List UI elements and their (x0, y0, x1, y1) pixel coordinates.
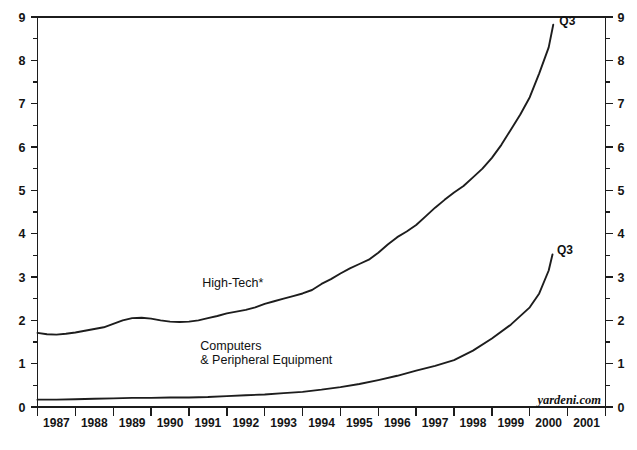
x-tick-label: 1990 (157, 416, 184, 430)
x-tick-label: 1988 (81, 416, 108, 430)
y-axis-labels-left: 0123456789 (19, 11, 26, 415)
x-tick-label: 1996 (384, 416, 411, 430)
series-label-high-tech: High-Tech* (202, 276, 263, 290)
chart-axes (38, 17, 606, 407)
x-tick-label: 1993 (270, 416, 297, 430)
y-tick-label-right: 0 (618, 401, 625, 415)
y-axis-ticks-right (606, 17, 613, 407)
x-tick-label: 2000 (535, 416, 562, 430)
footer-strip (0, 439, 637, 450)
x-tick-label: 1991 (195, 416, 222, 430)
y-tick-label-right: 3 (618, 271, 625, 285)
series-line-high-tech (38, 25, 554, 335)
x-tick-label: 1995 (346, 416, 373, 430)
y-tick-label-right: 4 (618, 227, 625, 241)
y-tick-label-right: 2 (618, 314, 625, 328)
y-tick-label-left: 8 (19, 54, 26, 68)
y-tick-label-right: 1 (618, 357, 625, 371)
x-tick-label: 1998 (460, 416, 487, 430)
annotation-q3-computers: Q3 (557, 243, 573, 257)
y-axis-labels-right: 0123456789 (618, 11, 625, 415)
y-tick-label-left: 7 (19, 97, 26, 111)
y-tick-label-left: 5 (19, 184, 26, 198)
y-tick-label-left: 0 (19, 401, 26, 415)
x-tick-label: 1997 (422, 416, 449, 430)
series-line-computers (38, 254, 553, 399)
x-axis-ticks (38, 407, 606, 416)
y-tick-label-right: 6 (618, 141, 625, 155)
y-tick-label-right: 7 (618, 97, 625, 111)
chart-container: 0123456789 0123456789 198719881989199019… (0, 0, 637, 450)
y-tick-label-left: 1 (19, 357, 26, 371)
watermark-yardeni: yardeni.com (535, 393, 601, 407)
x-tick-label: 1989 (119, 416, 146, 430)
y-axis-ticks-left (31, 17, 38, 407)
line-chart: 0123456789 0123456789 198719881989199019… (0, 0, 637, 450)
x-tick-label: 1992 (232, 416, 259, 430)
y-tick-label-right: 9 (618, 11, 625, 25)
y-tick-label-left: 4 (19, 227, 26, 241)
y-tick-label-left: 9 (19, 11, 26, 25)
x-tick-label: 1999 (497, 416, 524, 430)
series-label-computers-line2: & Peripheral Equipment (200, 353, 333, 367)
series-label-computers-line1: Computers (200, 339, 261, 353)
x-tick-label: 1994 (308, 416, 335, 430)
series-lines (38, 25, 554, 400)
x-axis-labels: 1987198819891990199119921993199419951996… (43, 416, 600, 430)
x-tick-label: 2001 (573, 416, 600, 430)
x-tick-label: 1987 (43, 416, 70, 430)
y-tick-label-left: 6 (19, 141, 26, 155)
y-tick-label-left: 3 (19, 271, 26, 285)
annotation-q3-high-tech: Q3 (559, 14, 575, 28)
y-tick-label-right: 8 (618, 54, 625, 68)
y-tick-label-left: 2 (19, 314, 26, 328)
y-tick-label-right: 5 (618, 184, 625, 198)
